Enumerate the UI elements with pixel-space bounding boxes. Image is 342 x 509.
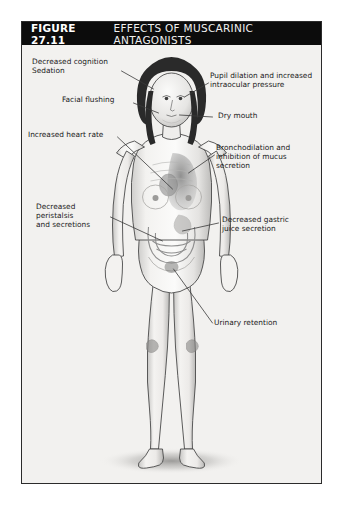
right-pupil (179, 97, 183, 101)
left-leg (147, 281, 169, 449)
callout-urinary-retention: Urinary retention (214, 318, 277, 327)
figure-card: FIGURE 27.11 EFFECTS OF MUSCARINIC ANTAG… (21, 21, 322, 484)
callout-bronchodilation: Bronchodilation and inhibition of mucus … (216, 143, 290, 171)
figure-title-bar: FIGURE 27.11 EFFECTS OF MUSCARINIC ANTAG… (22, 22, 321, 45)
head (150, 73, 194, 127)
floor-shadow (100, 448, 244, 474)
right-hand (221, 255, 238, 292)
callout-decreased-peristalsis: Decreased peristalsis and secretions (36, 202, 90, 230)
right-leg (174, 281, 196, 449)
page-title: EFFECTS OF MUSCARINIC ANTAGONISTS (114, 22, 321, 46)
callout-increased-heart-rate: Increased heart rate (28, 130, 103, 139)
callout-cognition-sedation: Decreased cognition Sedation (32, 57, 108, 75)
knee-detail (147, 340, 199, 353)
bladder (165, 261, 179, 273)
left-pupil (165, 97, 169, 101)
left-hand (105, 255, 122, 292)
callout-facial-flushing: Facial flushing (62, 95, 114, 104)
right-nipple (186, 195, 192, 201)
callout-dry-mouth: Dry mouth (218, 111, 257, 120)
callout-decreased-gastric-juice: Decreased gastric juice secretion (222, 215, 289, 233)
body-illustration (22, 45, 321, 483)
figure-number: FIGURE 27.11 (31, 22, 109, 46)
callout-pupil-dilation: Pupil dilation and increased intraocular… (210, 71, 312, 89)
illustration-area: Decreased cognition Sedation Facial flus… (22, 45, 321, 483)
left-nipple (153, 195, 159, 201)
